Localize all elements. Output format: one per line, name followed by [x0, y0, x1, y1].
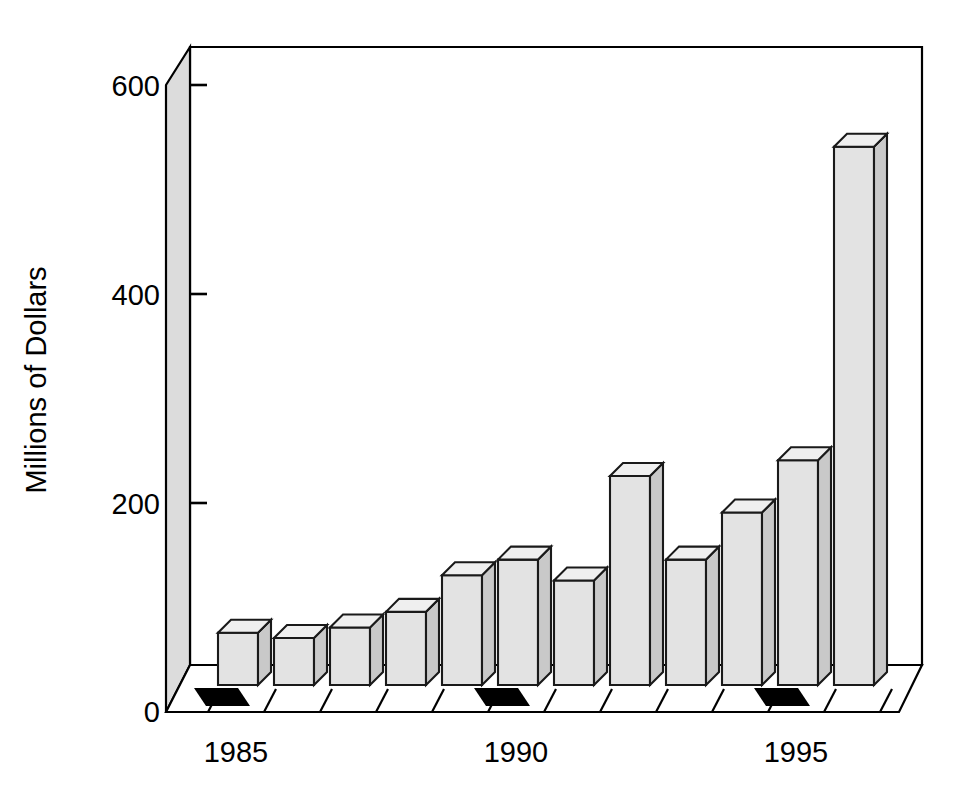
y-axis-title: Millions of Dollars: [20, 266, 52, 493]
bar-front-face: [722, 513, 762, 685]
x-axis-label-1995: 1995: [764, 736, 829, 768]
bar-side-face: [874, 134, 887, 685]
bar-side-face: [706, 547, 719, 685]
bar-front-face: [386, 612, 426, 685]
bar-side-face: [594, 567, 607, 685]
x-axis-labels: 198519901995: [204, 736, 829, 768]
bar-front-face: [330, 628, 370, 686]
bar-1992: [610, 463, 663, 685]
bar-front-face: [834, 147, 874, 685]
left-wall: [166, 47, 190, 712]
bar-side-face: [482, 562, 495, 685]
bar-front-face: [778, 460, 818, 685]
bar-front-face: [274, 638, 314, 685]
bar-1990: [498, 547, 551, 685]
bar-front-face: [498, 560, 538, 685]
bar-1985: [218, 620, 271, 685]
bar-1989: [442, 562, 495, 685]
bar-front-face: [610, 476, 650, 685]
bar-front-face: [666, 560, 706, 685]
bar-side-face: [650, 463, 663, 685]
y-tick-label-200: 200: [112, 488, 160, 520]
y-tick-label-600: 600: [112, 70, 160, 102]
bar-front-face: [554, 580, 594, 685]
bar-1995: [778, 447, 831, 685]
y-axis-labels: 600 400 200 0: [112, 70, 160, 728]
bar-1996: [834, 134, 887, 685]
chart-container: 600 400 200 0 Millions of Dollars 198519…: [0, 0, 959, 796]
bar-front-face: [442, 575, 482, 685]
x-axis-label-1985: 1985: [204, 736, 269, 768]
bar-front-face: [218, 633, 258, 685]
bar-1987: [330, 615, 383, 686]
bar-1994: [722, 500, 775, 685]
bar-side-face: [426, 599, 439, 685]
bar-1993: [666, 547, 719, 685]
y-tick-label-0: 0: [144, 696, 160, 728]
bar-chart-3d: 600 400 200 0 Millions of Dollars 198519…: [0, 0, 959, 796]
bar-side-face: [762, 500, 775, 685]
bar-1988: [386, 599, 439, 685]
y-tick-label-400: 400: [112, 279, 160, 311]
bar-side-face: [538, 547, 551, 685]
bar-side-face: [818, 447, 831, 685]
bar-1991: [554, 567, 607, 685]
bar-1986: [274, 625, 327, 685]
x-axis-label-1990: 1990: [484, 736, 549, 768]
